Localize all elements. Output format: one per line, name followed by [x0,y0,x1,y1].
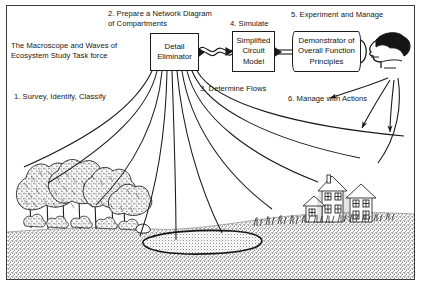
human-head-profile [361,33,410,68]
step-1-label: 1. Survey, Identify, Classify [14,92,106,102]
box-simplified-circuit-model-label: Simplified Circuit Model [232,31,275,72]
figure-canvas: Detail Eliminator Simplified Circuit Mod… [0,0,422,292]
connector-detail-to-circuit [199,47,232,56]
step-2-label: 2. Prepare a Network Diagram of Compartm… [108,9,212,29]
step-4-label: 4. Simulate [230,19,269,29]
step-5-label: 5. Experiment and Manage [291,10,383,20]
step-3-label: 3. Determine Flows [200,84,266,94]
step-6-label: 6. Manage with Actions [288,94,367,104]
management-action-arrows [330,78,399,163]
connector-circuit-to-demonstrator [275,48,292,56]
figure-title-text: The Macroscope and Waves of Ecosystem St… [11,41,151,61]
box-detail-eliminator-label: Detail Eliminator [150,33,199,71]
pond [143,230,262,254]
box-demonstrator-label: Demonstrator of Overall Function Princip… [292,31,361,72]
forest-trees [16,160,151,234]
